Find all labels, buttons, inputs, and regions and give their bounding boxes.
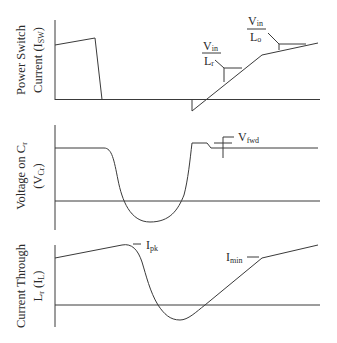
slope-marker-vin-lo: [268, 33, 306, 50]
ylabel-voltage-line2: (VCr): [31, 163, 46, 188]
waveform-diagram: Power Switch Current (ISW) Vin Lr Vin Lo: [0, 0, 337, 343]
inductor-current-waveform: [55, 245, 318, 320]
ylabel-power-switch-line1: Power Switch: [14, 24, 28, 95]
capacitor-voltage-waveform: [55, 143, 318, 222]
denominator-lo: Lo: [250, 30, 261, 44]
slope-marker-vin-lr: [215, 60, 242, 82]
panel-power-switch-current: Power Switch Current (ISW) Vin Lr Vin Lo: [14, 14, 320, 111]
label-vin-over-lr: Vin Lr: [202, 39, 221, 68]
ylabel-power-switch-line2: Current (ISW): [31, 27, 46, 93]
ylabel-current-line2: Lr (IL): [31, 271, 46, 302]
switch-current-waveform: [55, 38, 102, 100]
panel-current-through-lr: Current Through Lr (IL) Ipk Imin: [14, 238, 320, 328]
numerator-vin: Vin: [248, 14, 263, 28]
label-vin-over-lo: Vin Lo: [247, 14, 266, 44]
label-ipk: Ipk: [146, 238, 158, 253]
numerator-vin: Vin: [203, 39, 218, 53]
ylabel-voltage-line1: Voltage on Cr: [14, 142, 29, 210]
label-vfwd: Vfwd: [238, 130, 259, 145]
panel-voltage-on-cr: Voltage on Cr (VCr) Vfwd: [14, 125, 320, 230]
ylabel-current-line1: Current Through: [14, 243, 28, 328]
denominator-lr: Lr: [204, 54, 214, 68]
label-imin: Imin: [226, 250, 242, 265]
